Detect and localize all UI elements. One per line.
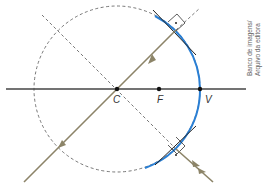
- mirror-ray-diagram: C F V: [0, 0, 269, 188]
- light-ray-through-center: [24, 30, 176, 182]
- point-c: [115, 87, 119, 91]
- ray-arrow-icon: [148, 54, 156, 64]
- label-c: C: [113, 94, 121, 105]
- credit-line-1: Banco de imagens/: [246, 20, 253, 76]
- label-f: F: [157, 94, 164, 105]
- tangent-line-lower: [155, 126, 196, 165]
- point-f: [157, 87, 161, 91]
- label-v: V: [205, 94, 213, 105]
- credit-line-2: Arquivo da editora: [254, 23, 261, 76]
- dashed-normal-upper-extension: [176, 8, 200, 30]
- image-credit: Banco de imagens/ Arquivo da editora: [244, 4, 266, 90]
- ray-arrow-icon: [198, 168, 206, 174]
- ray-arrow-icon: [192, 160, 200, 167]
- dashed-normal-lower: [42, 15, 176, 149]
- point-v: [198, 87, 202, 91]
